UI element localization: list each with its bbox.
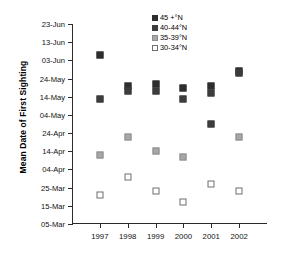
y-tick [68, 206, 73, 207]
data-point [152, 88, 159, 95]
y-tick-label: 14-Apr [42, 147, 65, 156]
legend-item-label: 30-34°N [160, 44, 187, 52]
y-tick-label: 04-May [40, 110, 65, 119]
legend-item[interactable]: 45 +°N [152, 14, 187, 22]
y-tick-label: 15-Mar [41, 201, 65, 210]
x-tick-label: 1997 [91, 232, 108, 241]
data-point [208, 181, 215, 188]
x-tick-label: 2001 [203, 232, 220, 241]
legend-item[interactable]: 35-39°N [152, 34, 187, 42]
x-tick [156, 223, 157, 228]
y-tick-label: 03-Jun [42, 56, 65, 65]
y-tick-label: 24-Apr [42, 129, 65, 138]
y-tick [68, 42, 73, 43]
data-point [236, 70, 243, 77]
x-tick-label: 1998 [119, 232, 136, 241]
y-tick [68, 79, 73, 80]
y-tick [68, 60, 73, 61]
x-tick [183, 223, 184, 228]
legend-swatch-icon [152, 35, 158, 41]
legend-swatch-icon [152, 15, 158, 21]
data-point [96, 191, 103, 198]
scatter-chart: Mean Date of First Sighting 23-Jun13-Jun… [0, 0, 286, 253]
data-point [180, 153, 187, 160]
data-point [180, 84, 187, 91]
data-point [152, 148, 159, 155]
data-point [124, 88, 131, 95]
plot-area: 23-Jun13-Jun03-Jun24-May14-May04-May24-A… [72, 24, 267, 224]
y-tick-label: 23-Jun [42, 20, 65, 29]
data-point [180, 95, 187, 102]
legend-swatch-icon [152, 45, 158, 51]
legend-item[interactable]: 30-34°N [152, 44, 187, 52]
data-point [124, 173, 131, 180]
data-point [152, 188, 159, 195]
y-tick-label: 24-May [40, 74, 65, 83]
data-point [96, 151, 103, 158]
y-tick [68, 133, 73, 134]
legend-item[interactable]: 40-44°N [152, 24, 187, 32]
y-tick-label: 25-Mar [41, 183, 65, 192]
x-tick-label: 1999 [147, 232, 164, 241]
data-point [152, 81, 159, 88]
y-tick [68, 24, 73, 25]
y-tick [68, 188, 73, 189]
legend-item-label: 40-44°N [160, 24, 187, 32]
x-tick-label: 2000 [175, 232, 192, 241]
chart-legend: 45 +°N40-44°N35-39°N30-34°N [152, 14, 187, 54]
y-tick [68, 97, 73, 98]
data-point [236, 133, 243, 140]
y-axis-line [72, 24, 73, 224]
data-point [208, 90, 215, 97]
x-axis-line [72, 223, 267, 224]
data-point [96, 51, 103, 58]
legend-item-label: 45 +°N [160, 14, 183, 22]
y-tick [68, 224, 73, 225]
x-tick [211, 223, 212, 228]
y-tick [68, 151, 73, 152]
data-point [96, 95, 103, 102]
legend-swatch-icon [152, 25, 158, 31]
y-tick-label: 05-Mar [41, 220, 65, 229]
x-tick [239, 223, 240, 228]
data-point [124, 133, 131, 140]
x-tick-label: 2002 [230, 232, 247, 241]
data-point [180, 199, 187, 206]
y-tick-label: 04-Apr [42, 165, 65, 174]
y-tick [68, 115, 73, 116]
data-point [236, 188, 243, 195]
y-tick-label: 13-Jun [42, 38, 65, 47]
y-axis-title: Mean Date of First Sighting [18, 32, 28, 202]
legend-item-label: 35-39°N [160, 34, 187, 42]
y-tick [68, 169, 73, 170]
data-point [208, 121, 215, 128]
x-tick [100, 223, 101, 228]
data-point [208, 82, 215, 89]
x-tick [128, 223, 129, 228]
y-tick-label: 14-May [40, 92, 65, 101]
